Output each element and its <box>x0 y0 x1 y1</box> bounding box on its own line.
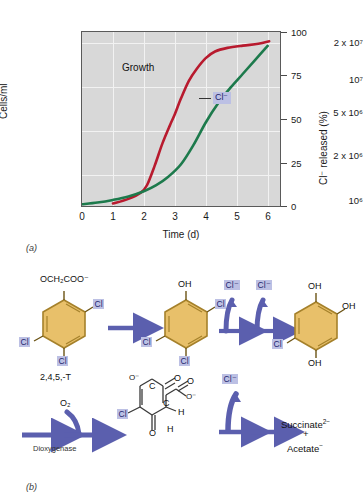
x-axis-title: Time (d) <box>163 229 200 240</box>
ytick-mark-right <box>281 119 287 120</box>
released-chloride-1: Cl⁻ <box>224 280 240 290</box>
release-arrow-row2 <box>219 394 278 432</box>
panel-label-b: (b) <box>26 482 37 492</box>
product-acetate-label: Acetate <box>287 443 319 454</box>
intermediate-skeleton <box>128 378 188 430</box>
degradation-pathway: OCH₂COO⁻ Cl Cl Cl 2,4,5,-T OH Cl Cl Cl C… <box>0 255 363 501</box>
substituent-cl: Cl <box>57 356 68 366</box>
xtick-label: 3 <box>172 211 178 222</box>
reagent-o2: O₂ <box>60 398 71 408</box>
xtick-label: 5 <box>234 211 240 222</box>
substituent-oh: OH <box>342 301 356 311</box>
substituent-cl: Cl <box>272 339 283 349</box>
product-plus-sign: + <box>303 428 309 440</box>
gridline-horizontal <box>82 175 280 176</box>
atom-o: O <box>187 376 194 386</box>
legend-leader-line <box>199 98 211 99</box>
series-annotation-growth: Growth <box>122 62 154 73</box>
benzene-ring-3 <box>287 293 345 358</box>
ytick-label-right: 100 <box>291 27 307 38</box>
ytick-mark-right <box>281 163 287 164</box>
gridline-horizontal <box>82 131 280 132</box>
y-axis-title-right: Cl⁻ released (%) <box>318 111 329 185</box>
substituent-och2coo: OCH₂COO⁻ <box>40 274 89 284</box>
product-succinate-charge: 2− <box>323 418 330 425</box>
gridline-vertical <box>144 32 145 206</box>
enzyme-label: Dioxygenase <box>33 444 76 453</box>
released-chloride-3: Cl⁻ <box>222 374 238 384</box>
product-acetate-charge: − <box>319 442 323 449</box>
xtick-label: 4 <box>203 211 209 222</box>
oxygen-input-arrow <box>64 412 97 435</box>
ytick-label-right: 50 <box>291 114 302 125</box>
ytick-label-left: 2 x 10⁷ <box>289 37 363 48</box>
ytick-label-right: 0 <box>291 201 296 212</box>
compound-name-245t: 2,4,5,-T <box>40 372 71 382</box>
atom-o: O <box>174 373 181 383</box>
gridline-horizontal <box>82 43 280 44</box>
gridline-horizontal <box>82 87 280 88</box>
substituent-oh: OH <box>308 358 322 368</box>
series-annotation-chloride: Cl⁻ <box>213 92 231 104</box>
gridline-vertical <box>206 32 207 206</box>
xtick-label: 6 <box>265 211 271 222</box>
ytick-label-right: 25 <box>291 158 302 169</box>
ytick-mark-right <box>281 206 287 207</box>
substituent-oh: OH <box>178 279 192 289</box>
xtick-label: 0 <box>79 211 85 222</box>
xtick-label: 2 <box>141 211 147 222</box>
ytick-label-right: 75 <box>291 70 302 81</box>
atom-h: H <box>178 407 185 417</box>
substituent-cl: Cl <box>179 356 190 366</box>
y-axis-title-left: Cells/ml <box>0 83 9 119</box>
substituent-cl: Cl <box>93 299 104 309</box>
product-succinate-label: Succinate <box>281 419 323 430</box>
ytick-mark-right <box>281 75 287 76</box>
atom-o-minus: O⁻ <box>186 392 196 402</box>
substituent-cl: Cl <box>215 299 226 309</box>
xtick-label: 1 <box>110 211 116 222</box>
atom-o-minus: O⁻ <box>129 373 139 383</box>
atom-o: O <box>149 428 156 438</box>
gridline-vertical <box>113 32 114 206</box>
gridline-vertical <box>237 32 238 206</box>
ytick-label-left: 10⁶ <box>289 195 363 206</box>
chart-plot-area <box>81 31 281 207</box>
gridline-vertical <box>268 32 269 206</box>
product-acetate: Acetate− <box>287 440 323 455</box>
atom-c: C <box>149 381 156 391</box>
ytick-mark-right <box>281 32 287 33</box>
released-chloride-2: Cl⁻ <box>256 280 272 290</box>
release-arrows-row1 <box>219 300 277 331</box>
substituent-oh: OH <box>308 281 322 291</box>
substituent-cl: Cl <box>141 337 152 347</box>
substituent-cl: Cl <box>117 409 128 419</box>
gridline-vertical <box>175 32 176 206</box>
substituent-cl: Cl <box>19 337 30 347</box>
atom-c: C <box>163 398 170 408</box>
benzene-ring-2 <box>156 291 215 356</box>
panel-label-a: (a) <box>26 243 37 253</box>
growth-chlorination-chart: 10⁶ 2 x 10⁶ 5 x 10⁶ 10⁷ 2 x 10⁷ Cells/ml… <box>0 0 363 240</box>
benzene-ring-1 <box>34 291 93 356</box>
atom-h: H <box>167 424 174 434</box>
figure-root: 10⁶ 2 x 10⁶ 5 x 10⁶ 10⁷ 2 x 10⁷ Cells/ml… <box>0 0 363 501</box>
